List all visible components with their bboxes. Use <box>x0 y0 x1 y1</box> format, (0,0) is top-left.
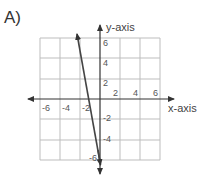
y-tick-label: -2 <box>103 113 111 123</box>
x-tick-label: -6 <box>42 103 50 113</box>
y-tick-label: 4 <box>103 58 108 68</box>
x-tick-label: 4 <box>133 88 138 98</box>
x-tick-label: -4 <box>62 103 70 113</box>
x-tick-label: -2 <box>82 103 90 113</box>
y-tick-label: 6 <box>103 38 108 48</box>
y-axis-title: y-axis <box>106 21 135 33</box>
y-tick-label: -4 <box>103 134 111 144</box>
x-axis-title: x-axis <box>168 102 197 114</box>
x-tick-label: 2 <box>113 88 118 98</box>
y-tick-label: 2 <box>103 78 108 88</box>
x-tick-label: 6 <box>153 88 158 98</box>
coordinate-plane: -6 -4 -2 2 4 6 6 4 2 -2 -4 -6 y-axis x-a… <box>0 0 204 178</box>
y-tick-label: -6 <box>89 153 97 163</box>
